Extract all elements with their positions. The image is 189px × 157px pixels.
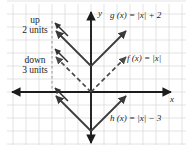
down-annotation: down 3 units	[8, 56, 62, 76]
up-annotation-line2: 2 units	[10, 26, 60, 36]
x-axis-label: x	[170, 95, 174, 104]
absolute-value-translation-figure: up 2 units down 3 units g (x) = |x| + 2 …	[0, 0, 189, 157]
function-label-h: h (x) = |x| − 3	[110, 114, 161, 123]
function-label-g: g (x) = |x| + 2	[110, 11, 161, 20]
down-annotation-line2: 3 units	[8, 66, 62, 76]
y-axis-label: y	[98, 9, 102, 18]
function-label-f: f (x) = |x|	[127, 54, 161, 63]
up-annotation: up 2 units	[10, 16, 60, 36]
arrow-to-h	[55, 88, 68, 101]
